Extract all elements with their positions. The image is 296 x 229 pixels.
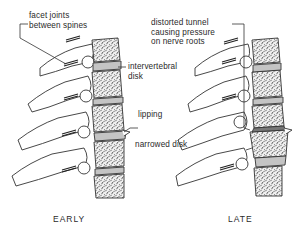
intervertebral-disk-label-line1: intervertebral xyxy=(128,62,177,72)
intervertebral-disk-label-line2: disk xyxy=(128,72,177,82)
facet-joints-label-line1: facet joints xyxy=(29,11,87,21)
distorted-tunnel-label-line1: distorted tunnel xyxy=(151,18,215,28)
narrowed-disk-label: narrowed disk xyxy=(135,140,187,150)
lipping-label: lipping xyxy=(138,110,162,120)
intervertebral-disk-label: intervertebral disk xyxy=(128,62,177,81)
late-spine xyxy=(176,38,292,196)
late-caption: LATE xyxy=(228,214,253,224)
facet-joints-label: facet joints between spines xyxy=(29,11,87,30)
early-spine xyxy=(12,36,130,198)
distorted-tunnel-label-line2: causing pressure xyxy=(151,28,215,38)
distorted-tunnel-label-line3: on nerve roots xyxy=(151,37,215,47)
distorted-tunnel-label: distorted tunnel causing pressure on ner… xyxy=(151,18,215,47)
early-caption: EARLY xyxy=(53,214,85,224)
facet-joints-label-line2: between spines xyxy=(29,21,87,31)
